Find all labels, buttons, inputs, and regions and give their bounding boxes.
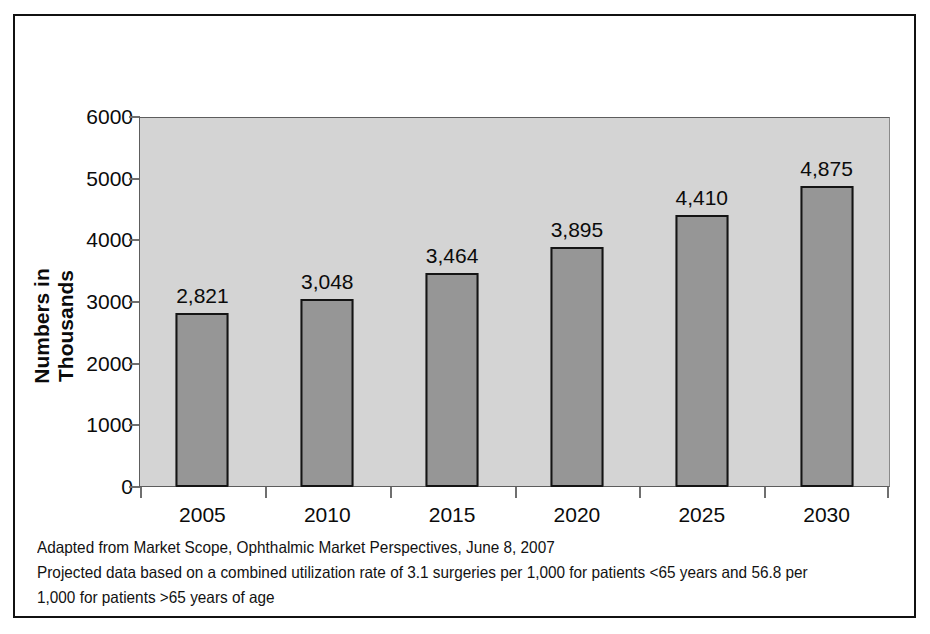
bar-value-label: 4,875 <box>800 157 853 181</box>
bar <box>800 186 853 487</box>
y-axis-tick-labels: 0100020003000400050006000 <box>15 117 133 487</box>
bar-group: 4,410 <box>639 118 764 487</box>
y-axis-tick-label: 6000 <box>86 105 133 129</box>
x-axis-tick-label: 2015 <box>429 503 476 527</box>
footnote-line-2: Projected data based on a combined utili… <box>37 560 839 585</box>
y-axis-tick-label: 1000 <box>86 413 133 437</box>
x-axis-tick <box>764 487 766 498</box>
x-axis-tick <box>390 487 392 498</box>
x-axis-tick-label: 2010 <box>304 503 351 527</box>
bar-group: 3,895 <box>515 118 640 487</box>
bar-group: 3,464 <box>390 118 515 487</box>
x-axis-tick <box>265 487 267 498</box>
y-axis-tick-label: 4000 <box>86 228 133 252</box>
x-axis-tick-label: 2020 <box>554 503 601 527</box>
bar-group: 4,875 <box>764 118 889 487</box>
bar <box>176 313 229 487</box>
plot-wrapper: Numbers in Thousands 0100020003000400050… <box>15 16 914 536</box>
x-axis-tick-label: 2025 <box>678 503 725 527</box>
y-axis-tick-label: 3000 <box>86 290 133 314</box>
x-axis-tick <box>515 487 517 498</box>
y-axis-tick-label: 5000 <box>86 167 133 191</box>
x-axis-tick-label: 2030 <box>803 503 850 527</box>
y-axis-tick-label: 2000 <box>86 352 133 376</box>
bar-value-label: 4,410 <box>675 186 728 210</box>
x-axis-tick-labels: 200520102015202020252030 <box>140 503 889 533</box>
bar <box>550 247 603 487</box>
x-axis-tick-label: 2005 <box>179 503 226 527</box>
bar-series: 2,8213,0483,4643,8954,4104,875 <box>140 118 889 487</box>
bar <box>675 215 728 487</box>
bar <box>301 299 354 487</box>
bar-value-label: 2,821 <box>176 284 229 308</box>
bar-value-label: 3,464 <box>426 244 479 268</box>
bar-value-label: 3,048 <box>301 270 354 294</box>
bar-value-label: 3,895 <box>551 218 604 242</box>
bar-group: 3,048 <box>265 118 390 487</box>
x-axis-tick <box>140 487 142 498</box>
x-axis-tick-marks <box>140 487 890 499</box>
x-axis-tick <box>639 487 641 498</box>
footnote-line-3: 1,000 for patients >65 years of age <box>37 585 839 610</box>
x-axis-tick <box>887 487 889 498</box>
footnote-line-1: Adapted from Market Scope, Ophthalmic Ma… <box>37 535 839 560</box>
bar-group: 2,821 <box>140 118 265 487</box>
footnote-block: Adapted from Market Scope, Ophthalmic Ma… <box>37 535 839 610</box>
chart-figure: Numbers in Thousands 0100020003000400050… <box>13 14 916 618</box>
bar <box>426 273 479 487</box>
